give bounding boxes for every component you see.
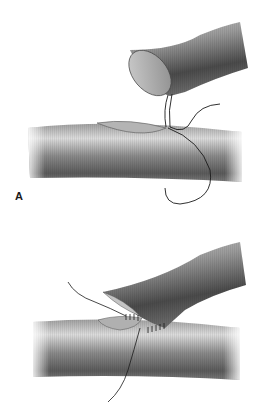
anastomosis-step-a-illustration — [0, 0, 264, 210]
anastomosis-step-b-illustration — [0, 210, 264, 417]
panel-a: A — [0, 0, 264, 210]
panel-b: B — [0, 210, 264, 417]
panel-label-a: A — [15, 190, 23, 202]
